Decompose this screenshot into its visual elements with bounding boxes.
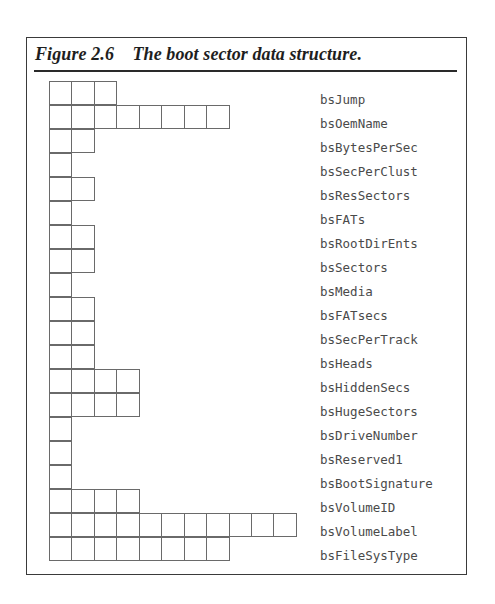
byte-cell [49, 465, 72, 489]
field-label: bsReserved1 [320, 448, 403, 472]
field-row [49, 105, 229, 129]
figure-caption: The boot sector data structure. [132, 44, 362, 64]
field-row [49, 129, 94, 153]
byte-cell [206, 513, 229, 537]
field-label: bsOemName [320, 112, 388, 136]
byte-cell [206, 105, 229, 129]
byte-cell [49, 345, 72, 369]
field-label: bsVolumeID [320, 496, 395, 520]
field-label: bsMedia [320, 280, 373, 304]
byte-cell [161, 537, 184, 561]
field-label: bsDriveNumber [320, 424, 418, 448]
field-row [49, 273, 71, 297]
byte-cell [94, 105, 117, 129]
byte-cell [71, 249, 94, 273]
field-row [49, 297, 94, 321]
field-row [49, 369, 139, 393]
field-row [49, 177, 94, 201]
byte-cell [116, 369, 139, 393]
field-row [49, 225, 94, 249]
byte-cell [116, 513, 139, 537]
byte-cell [273, 513, 296, 537]
field-row [49, 321, 94, 345]
byte-cell [71, 489, 94, 513]
byte-cell [71, 129, 94, 153]
byte-cell [71, 513, 94, 537]
byte-cell [116, 105, 139, 129]
byte-cell [49, 81, 72, 105]
field-row [49, 513, 296, 537]
field-label: bsHeads [320, 352, 373, 376]
field-label: bsHugeSectors [320, 400, 418, 424]
byte-cell [49, 177, 72, 201]
byte-cell [184, 105, 207, 129]
figure-title: Figure 2.6 The boot sector data structur… [35, 44, 362, 65]
figure-number: Figure 2.6 [35, 44, 114, 64]
field-row [49, 393, 139, 417]
byte-cell [206, 537, 229, 561]
field-row [49, 537, 229, 561]
byte-cell [49, 105, 72, 129]
byte-cell [161, 105, 184, 129]
byte-cell [161, 513, 184, 537]
byte-cell [71, 81, 94, 105]
byte-cell [49, 321, 72, 345]
field-label: bsResSectors [320, 184, 410, 208]
field-row [49, 81, 116, 105]
field-label: bsSectors [320, 256, 388, 280]
byte-cell [94, 537, 117, 561]
field-row [49, 417, 71, 441]
field-label: bsRootDirEnts [320, 232, 418, 256]
byte-cell [139, 537, 162, 561]
byte-cell [71, 369, 94, 393]
byte-cell [116, 537, 139, 561]
byte-cell [94, 513, 117, 537]
field-label: bsFATsecs [320, 304, 388, 328]
byte-cell [49, 225, 72, 249]
field-label: bsFATs [320, 208, 365, 232]
byte-cell [49, 249, 72, 273]
title-rule [34, 70, 457, 72]
byte-cell [71, 105, 94, 129]
byte-cell [184, 513, 207, 537]
byte-cell [49, 129, 72, 153]
field-label: bsBytesPerSec [320, 136, 418, 160]
byte-cell [94, 369, 117, 393]
byte-cell [49, 489, 72, 513]
byte-cell [49, 393, 72, 417]
byte-cell [49, 153, 72, 177]
byte-cell [49, 513, 72, 537]
field-label: bsSecPerTrack [320, 328, 418, 352]
field-label: bsJump [320, 88, 365, 112]
byte-cell [139, 105, 162, 129]
byte-cell [251, 513, 274, 537]
field-row [49, 249, 94, 273]
byte-cell [71, 321, 94, 345]
byte-cell [184, 537, 207, 561]
byte-cell [94, 489, 117, 513]
field-label: bsHiddenSecs [320, 376, 410, 400]
byte-cell [49, 537, 72, 561]
field-label: bsBootSignature [320, 472, 433, 496]
field-row [49, 465, 71, 489]
byte-cell [49, 441, 72, 465]
byte-cell [229, 513, 252, 537]
byte-cell [71, 345, 94, 369]
field-label: bsFileSysType [320, 544, 418, 568]
byte-cell [71, 177, 94, 201]
field-row [49, 489, 139, 513]
byte-cell [49, 297, 72, 321]
byte-cell [71, 393, 94, 417]
byte-cell [49, 417, 72, 441]
byte-cell [116, 489, 139, 513]
byte-cell [49, 273, 72, 297]
byte-cell [71, 537, 94, 561]
field-row [49, 345, 94, 369]
field-label: bsVolumeLabel [320, 520, 418, 544]
field-label: bsSecPerClust [320, 160, 418, 184]
byte-cell [94, 393, 117, 417]
byte-cell [139, 513, 162, 537]
byte-cell [94, 81, 117, 105]
field-row [49, 441, 71, 465]
field-row [49, 153, 71, 177]
